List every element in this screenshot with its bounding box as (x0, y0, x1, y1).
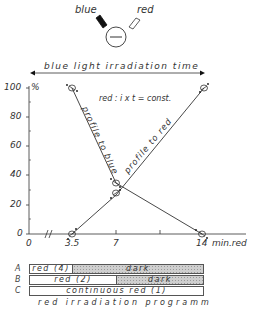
x-unit-label: min.red (212, 238, 247, 248)
constant-label: red : i x t = const. (99, 94, 171, 103)
segment-continuous-red: continuous red (1) (30, 287, 203, 295)
red-lamp-icon (129, 18, 140, 29)
y-tick-60: 60 (10, 140, 21, 150)
x-tick-7: 7 (113, 238, 119, 248)
profile-red-label: profile to red (121, 116, 174, 176)
program-caption: red irradiation programm (38, 298, 212, 307)
profile-blue-label: profile to blue (80, 104, 121, 177)
sample-dish-icon (106, 27, 126, 47)
row-label-c: C (15, 286, 21, 295)
x-tick-14: 14 (196, 238, 207, 248)
y-axis (26, 86, 31, 234)
y-unit: % (31, 82, 40, 92)
y-tick-0: 0 (17, 228, 23, 238)
program-bar-c: continuous red (1) (29, 286, 204, 296)
y-tick-100: 100 (4, 82, 21, 92)
x-axis (29, 230, 246, 238)
x-tick-3.5: 3.5 (65, 238, 79, 248)
program-bar-b: red (2) dark (29, 275, 204, 285)
blue-lamp-icon (96, 15, 107, 28)
y-tick-40: 40 (10, 169, 21, 179)
row-label-a: A (15, 264, 20, 273)
segment-dark: dark (117, 276, 203, 284)
blue-light-time-arrow (30, 71, 205, 76)
segment-dark: dark (73, 265, 203, 273)
segment-red: red (4) (30, 265, 73, 273)
y-tick-20: 20 (10, 199, 21, 209)
y-tick-80: 80 (10, 111, 21, 121)
row-label-b: B (15, 275, 21, 284)
program-bar-a: red (4) dark (29, 264, 204, 274)
x-tick-0: 0 (26, 238, 32, 248)
segment-red: red (2) (30, 276, 117, 284)
top-arrow-label: blue light irradiation time (44, 61, 199, 71)
